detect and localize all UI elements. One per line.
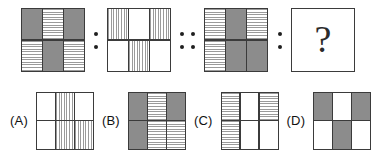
cell-4-hstripe bbox=[148, 121, 166, 148]
cell-4-vstripe bbox=[129, 41, 149, 71]
cell-2-hstripe bbox=[247, 9, 267, 39]
dot bbox=[94, 32, 98, 36]
analogy-puzzle: ? (A) (B) (C) (D) bbox=[0, 0, 377, 159]
cell-0-white bbox=[37, 93, 55, 120]
cell-0-hstripe bbox=[222, 93, 240, 120]
cell-4-vstripe bbox=[56, 121, 74, 148]
dot bbox=[278, 45, 282, 49]
cell-2-dark bbox=[352, 93, 370, 120]
separator-colon-double bbox=[171, 9, 204, 71]
cell-4-white bbox=[241, 121, 259, 148]
dot bbox=[94, 45, 98, 49]
dot bbox=[180, 45, 184, 49]
cell-5-white bbox=[260, 121, 278, 148]
cell-3-hstripe bbox=[222, 121, 240, 148]
cell-1-hstripe bbox=[43, 9, 63, 39]
cell-1-dark bbox=[226, 9, 246, 39]
cell-3-hstripe bbox=[205, 41, 225, 71]
cell-0-dark bbox=[314, 93, 332, 120]
cell-1-hstripe bbox=[148, 93, 166, 120]
cell-1-white bbox=[333, 93, 351, 120]
separator-colon-2 bbox=[268, 9, 291, 71]
option-b-group[interactable]: (B) bbox=[102, 92, 186, 150]
dot bbox=[180, 32, 184, 36]
cell-2-dark bbox=[167, 93, 185, 120]
cell-3-white bbox=[108, 41, 128, 71]
cell-2-vstripe bbox=[150, 9, 170, 39]
cell-5-white bbox=[352, 121, 370, 148]
cell-5-vstripe bbox=[75, 121, 93, 148]
cell-0-hstripe bbox=[205, 9, 225, 39]
option-c-figure[interactable] bbox=[221, 92, 279, 150]
option-a-figure[interactable] bbox=[36, 92, 94, 150]
cell-0-dark bbox=[22, 9, 42, 39]
option-d-group[interactable]: (D) bbox=[287, 92, 372, 150]
option-a-label: (A) bbox=[10, 114, 32, 127]
cell-4-dark bbox=[43, 41, 63, 71]
cell-4-dark bbox=[226, 41, 246, 71]
unknown-answer-box: ? bbox=[291, 8, 355, 72]
dot bbox=[191, 45, 195, 49]
separator-colon-1 bbox=[85, 9, 107, 71]
question-mark-glyph: ? bbox=[315, 20, 332, 58]
cell-3-white bbox=[37, 121, 55, 148]
cell-5-hstripe bbox=[167, 121, 185, 148]
analogy-row: ? bbox=[0, 0, 377, 80]
cell-3-hstripe bbox=[22, 41, 42, 71]
cell-4-dark bbox=[333, 121, 351, 148]
cell-5-white bbox=[150, 41, 170, 71]
cell-0-dark bbox=[129, 93, 147, 120]
cell-0-vstripe bbox=[108, 9, 128, 39]
cell-5-dark bbox=[247, 41, 267, 71]
cell-1-white bbox=[241, 93, 259, 120]
option-d-label: (D) bbox=[287, 114, 310, 127]
cell-2-white bbox=[75, 93, 93, 120]
cell-2-hstripe bbox=[260, 93, 278, 120]
option-a-group[interactable]: (A) bbox=[10, 92, 94, 150]
options-row: (A) (B) (C) (D) bbox=[0, 82, 377, 159]
option-d-figure[interactable] bbox=[313, 92, 371, 150]
cell-3-white bbox=[314, 121, 332, 148]
dot bbox=[191, 32, 195, 36]
cell-5-hstripe bbox=[64, 41, 84, 71]
dot bbox=[278, 32, 282, 36]
cell-2-dark bbox=[64, 9, 84, 39]
option-b-figure[interactable] bbox=[128, 92, 186, 150]
option-b-label: (B) bbox=[102, 114, 124, 127]
cell-1-vstripe bbox=[56, 93, 74, 120]
option-c-group[interactable]: (C) bbox=[194, 92, 279, 150]
option-c-label: (C) bbox=[194, 114, 217, 127]
analogy-figure-1 bbox=[21, 8, 85, 72]
analogy-figure-3 bbox=[204, 8, 268, 72]
analogy-figure-2 bbox=[107, 8, 171, 72]
cell-1-white bbox=[129, 9, 149, 39]
cell-3-dark bbox=[129, 121, 147, 148]
